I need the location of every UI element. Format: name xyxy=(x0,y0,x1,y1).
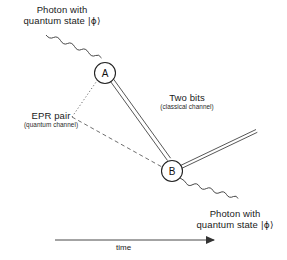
photon-out-label-line2: quantum state |ϕ⟩ xyxy=(185,219,285,231)
photon-in-wave xyxy=(46,35,102,58)
epr-pair-subtitle: (quantum channel) xyxy=(11,121,91,129)
node-a-letter: A xyxy=(102,68,109,79)
photon-out-wave xyxy=(180,178,238,199)
node-a: A xyxy=(95,63,116,84)
photon-out-ket-symbol: |ϕ⟩ xyxy=(261,220,274,230)
time-axis-label: time xyxy=(116,243,131,252)
outgoing-beam-double-line xyxy=(181,130,258,169)
photon-out-label: Photon with quantum state |ϕ⟩ xyxy=(185,208,285,231)
photon-in-label: Photon with quantum state |ϕ⟩ xyxy=(8,4,116,27)
photon-in-label-line2: quantum state |ϕ⟩ xyxy=(8,15,116,27)
node-b-letter: B xyxy=(169,166,176,177)
epr-pair-label: EPR pair (quantum channel) xyxy=(11,110,91,129)
photon-in-label-line1: Photon with xyxy=(8,4,116,15)
two-bits-title: Two bits xyxy=(148,92,226,103)
photon-in-ket-symbol: |ϕ⟩ xyxy=(88,16,101,26)
two-bits-subtitle: (classical channel) xyxy=(148,103,226,111)
node-b: B xyxy=(162,161,183,182)
photon-out-label-prefix: quantum state xyxy=(196,219,260,230)
photon-out-label-line1: Photon with xyxy=(185,208,285,219)
photon-in-label-prefix: quantum state xyxy=(23,15,87,26)
teleportation-diagram: A B Photon with quantum state |ϕ⟩ Two bi… xyxy=(0,0,287,260)
two-bits-label: Two bits (classical channel) xyxy=(148,92,226,111)
epr-pair-title: EPR pair xyxy=(11,110,91,121)
